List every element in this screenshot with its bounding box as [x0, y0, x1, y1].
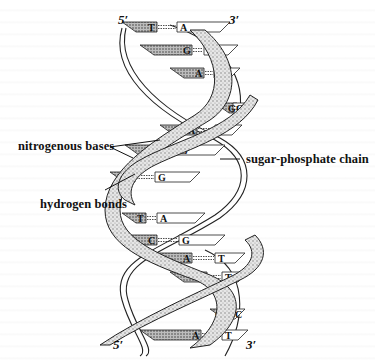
svg-text:A: A: [183, 253, 191, 264]
sugar-phosphate-chain-label: sugar-phosphate chain: [246, 152, 369, 167]
svg-text:G: G: [228, 103, 236, 114]
three-prime-top-label: 3′: [229, 12, 239, 28]
five-prime-top-label: 5′: [118, 12, 128, 28]
base-pair: AT: [140, 330, 248, 341]
svg-text:A: A: [192, 330, 200, 341]
five-prime-bottom-label: 5′: [113, 337, 123, 353]
svg-text:A: A: [180, 22, 188, 33]
hydrogen-bonds-label: hydrogen bonds: [40, 197, 127, 212]
svg-text:A: A: [160, 213, 168, 224]
nitrogenous-bases-label: nitrogenous bases: [18, 139, 114, 154]
dna-helix-illustration: TAGCATGCATCGCGTACGATATGCAT: [0, 0, 375, 364]
svg-text:T: T: [137, 213, 144, 224]
three-prime-bottom-label: 3′: [246, 337, 256, 353]
base-pair: TA: [122, 213, 205, 224]
svg-text:C: C: [148, 235, 155, 246]
svg-text:A: A: [195, 68, 203, 79]
svg-text:G: G: [182, 235, 190, 246]
svg-text:G: G: [158, 172, 166, 183]
svg-text:T: T: [218, 253, 225, 264]
svg-text:T: T: [148, 22, 155, 33]
svg-text:G: G: [183, 45, 191, 56]
